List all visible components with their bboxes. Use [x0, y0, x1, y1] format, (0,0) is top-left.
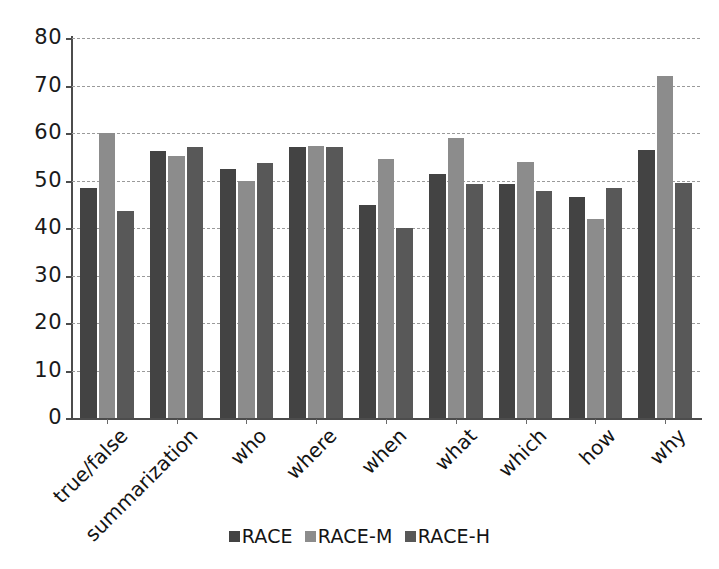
- x-tick-mark: [595, 419, 596, 424]
- bar: [466, 184, 483, 418]
- bar-group: [150, 38, 204, 418]
- bar: [289, 147, 306, 418]
- bar: [359, 205, 376, 418]
- y-tick-label: 60: [0, 122, 62, 143]
- legend-label: RACE-M: [318, 527, 393, 546]
- bar: [187, 147, 204, 418]
- y-tick-mark: [66, 418, 72, 420]
- legend-item[interactable]: RACE: [229, 527, 293, 546]
- bar-group: [429, 38, 483, 418]
- bar-group: [638, 38, 692, 418]
- bar-chart: 01020304050607080 true/falsesummarizatio…: [0, 0, 719, 569]
- y-tick-label: 80: [0, 27, 62, 48]
- y-tick-label: 10: [0, 360, 62, 381]
- bar-group: [499, 38, 553, 418]
- bar: [308, 146, 325, 418]
- bar-group: [220, 38, 274, 418]
- x-tick-mark: [665, 419, 666, 424]
- y-tick-label: 50: [0, 170, 62, 191]
- x-tick-mark: [177, 419, 178, 424]
- bar: [99, 133, 116, 418]
- bar: [569, 197, 586, 418]
- legend-label: RACE: [242, 527, 293, 546]
- x-tick-mark: [526, 419, 527, 424]
- x-tick-mark: [246, 419, 247, 424]
- x-tick-mark: [456, 419, 457, 424]
- bar-group: [289, 38, 343, 418]
- y-tick-label: 70: [0, 75, 62, 96]
- legend-item[interactable]: RACE-M: [305, 527, 393, 546]
- bar: [657, 76, 674, 418]
- legend-label: RACE-H: [418, 527, 491, 546]
- legend-swatch-icon: [405, 531, 416, 542]
- bar: [326, 147, 343, 418]
- x-tick-mark: [107, 419, 108, 424]
- bar: [150, 151, 167, 418]
- bar: [80, 188, 97, 418]
- bar: [396, 228, 413, 418]
- bar-group: [80, 38, 134, 418]
- x-tick-mark: [386, 419, 387, 424]
- bar: [117, 211, 134, 418]
- legend-swatch-icon: [229, 531, 240, 542]
- legend-item[interactable]: RACE-H: [405, 527, 491, 546]
- bar: [638, 150, 655, 418]
- y-tick-label: 20: [0, 312, 62, 333]
- plot-area: [72, 38, 700, 418]
- bar-group: [569, 38, 623, 418]
- bar: [429, 174, 446, 418]
- x-tick-mark: [316, 419, 317, 424]
- bar: [448, 138, 465, 418]
- y-tick-label: 30: [0, 265, 62, 286]
- bar: [257, 163, 274, 418]
- bar: [536, 191, 553, 418]
- y-tick-label: 0: [0, 407, 62, 428]
- chart-legend: RACERACE-MRACE-H: [0, 527, 719, 546]
- bar: [517, 162, 534, 418]
- bar: [499, 184, 516, 418]
- bar: [168, 156, 185, 418]
- bar: [378, 159, 395, 418]
- legend-swatch-icon: [305, 531, 316, 542]
- bar: [606, 188, 623, 418]
- bar: [220, 169, 237, 418]
- bar: [238, 181, 255, 419]
- bar-group: [359, 38, 413, 418]
- bar: [587, 219, 604, 418]
- bar: [675, 183, 692, 418]
- y-tick-label: 40: [0, 217, 62, 238]
